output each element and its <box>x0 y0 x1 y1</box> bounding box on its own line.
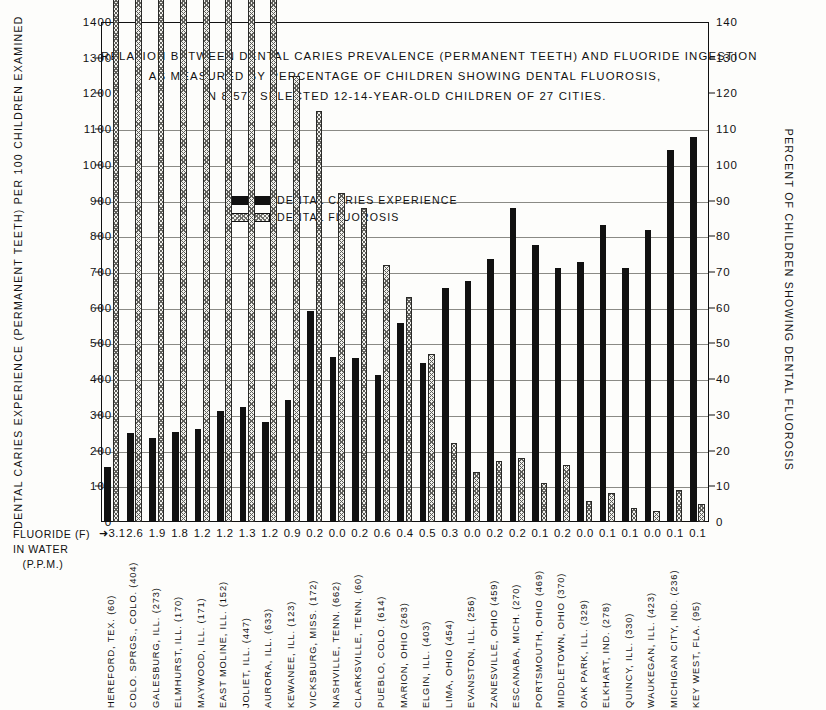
fluoride-value: ➜3.1 <box>99 527 126 540</box>
bar-dental-caries-experience <box>487 259 494 522</box>
city-label: PORTSMOUTH, OHIO (469) <box>534 570 544 708</box>
y-axis-right-tick-mark <box>709 200 715 201</box>
bar-dental-fluorosis <box>451 443 458 522</box>
bar-dental-fluorosis <box>180 0 187 522</box>
y-axis-title-right-text: PERCENT OF CHILDREN SHOWING DENTAL FLUOR… <box>783 129 795 471</box>
city-label: ESCANABA, MICH. (270) <box>511 584 521 708</box>
fluoride-value: 0.9 <box>284 527 301 539</box>
bars-layer <box>101 22 709 522</box>
y-axis-right-tick-mark <box>709 307 715 308</box>
fluoride-value: 1.2 <box>261 527 278 539</box>
y-axis-right-tick-label: 40 <box>716 373 776 385</box>
y-axis-right-tick-label: 70 <box>716 266 776 278</box>
city-label: MICHIGAN CITY, IND. (236) <box>669 570 679 708</box>
bar-dental-fluorosis <box>563 465 570 522</box>
bar-dental-caries-experience <box>600 225 607 522</box>
y-axis-right-tick-mark <box>709 486 715 487</box>
fluoride-value: 0.1 <box>532 527 549 539</box>
city-label: KEY WEST, FLA. (95) <box>691 601 701 708</box>
city-label: AURORA, ILL. (633) <box>263 608 273 708</box>
bar-dental-fluorosis <box>496 461 503 522</box>
city-label: HEREFORD, TEX. (60) <box>106 595 116 708</box>
city-label: OAK PARK, ILL. (329) <box>579 599 589 708</box>
fluoride-value: 0.4 <box>396 527 413 539</box>
bar-dental-caries-experience <box>375 375 382 523</box>
y-axis-title-left-text: DENTAL CARIES EXPERIENCE (PERMANENT TEET… <box>12 15 24 528</box>
y-axis-title-left: DENTAL CARIES EXPERIENCE (PERMANENT TEET… <box>9 22 27 522</box>
y-axis-right-tick-label: 100 <box>716 159 776 171</box>
city-label: ELMHURST, ILL. (170) <box>173 596 183 708</box>
fluoride-value: 1.2 <box>194 527 211 539</box>
bar-group <box>371 22 394 522</box>
bar-dental-caries-experience <box>262 422 269 522</box>
fluoride-value: 2.6 <box>126 527 143 539</box>
bar-dental-fluorosis <box>270 0 277 522</box>
bar-dental-caries-experience <box>149 438 156 522</box>
bar-dental-fluorosis <box>541 483 548 522</box>
bar-dental-caries-experience <box>622 268 629 522</box>
bar-dental-caries-experience <box>330 357 337 522</box>
fluoride-value: 0.0 <box>644 527 661 539</box>
fluoride-value: 0.0 <box>577 527 594 539</box>
bar-dental-fluorosis <box>608 493 615 522</box>
y-axis-right-tick-label: 120 <box>716 87 776 99</box>
bar-dental-fluorosis <box>473 472 480 522</box>
bar-group <box>124 22 147 522</box>
y-axis-right-tick-label: 20 <box>716 445 776 457</box>
bar-dental-fluorosis <box>316 111 323 522</box>
city-label: MIDDLETOWN, OHIO (370) <box>556 573 566 708</box>
city-label: LIMA, OHIO (454) <box>444 619 454 708</box>
city-label: VICKSBURG, MISS. (172) <box>308 580 318 708</box>
bar-dental-caries-experience <box>307 311 314 522</box>
y-axis-right-tick-label: 110 <box>716 123 776 135</box>
bar-dental-caries-experience <box>397 323 404 522</box>
y-axis-title-right: PERCENT OF CHILDREN SHOWING DENTAL FLUOR… <box>780 100 798 500</box>
fluoride-value: 0.1 <box>622 527 639 539</box>
bar-dental-fluorosis <box>698 504 705 522</box>
y-axis-right-tick-label: 50 <box>716 337 776 349</box>
city-label: COLO. SPRGS., COLO. (404) <box>128 562 138 708</box>
bar-group <box>596 22 619 522</box>
city-label: KEWANEE, ILL. (123) <box>286 601 296 708</box>
dental-caries-fluorosis-chart: DENTAL CARIES EXPERIENCE (PERMANENT TEET… <box>0 0 826 710</box>
bar-group <box>416 22 439 522</box>
y-axis-right-tick-label: 80 <box>716 230 776 242</box>
city-label: PUEBLO, COLO. (614) <box>376 596 386 708</box>
city-label: MAYWOOD, ILL. (171) <box>196 597 206 708</box>
bar-dental-caries-experience <box>104 467 111 522</box>
bar-group <box>551 22 574 522</box>
bar-dental-caries-experience <box>667 150 674 523</box>
fluoride-value: 0.1 <box>689 527 706 539</box>
city-label: MARION, OHIO (263) <box>399 602 409 708</box>
fluoride-value: 0.1 <box>599 527 616 539</box>
bar-group <box>686 22 709 522</box>
bar-dental-fluorosis <box>383 265 390 522</box>
bar-group <box>574 22 597 522</box>
y-axis-right-tick-mark <box>709 236 715 237</box>
y-axis-right-tick-label: 60 <box>716 302 776 314</box>
bar-dental-fluorosis <box>428 354 435 522</box>
bar-dental-caries-experience <box>240 407 247 522</box>
city-label: EAST MOLINE, ILL. (152) <box>218 581 228 708</box>
bar-dental-fluorosis <box>158 0 165 522</box>
bar-dental-caries-experience <box>645 230 652 522</box>
y-axis-right-tick-label: 90 <box>716 195 776 207</box>
fluoride-value: 0.2 <box>509 527 526 539</box>
bar-group <box>394 22 417 522</box>
bar-group <box>664 22 687 522</box>
fluoride-value: 0.2 <box>306 527 323 539</box>
bar-group <box>619 22 642 522</box>
bar-dental-caries-experience <box>442 288 449 522</box>
fluoride-value: 0.1 <box>667 527 684 539</box>
y-axis-right-tick-mark <box>709 414 715 415</box>
fluoride-value: 0.2 <box>554 527 571 539</box>
bar-dental-fluorosis <box>653 511 660 522</box>
y-axis-right-tick-mark <box>709 343 715 344</box>
bar-dental-fluorosis <box>203 0 210 522</box>
city-label: JOLIET, ILL. (447) <box>241 617 251 708</box>
fluoride-values-row: ➜3.12.61.91.81.21.21.31.20.90.20.00.20.6… <box>101 527 709 545</box>
bar-dental-fluorosis <box>631 508 638 522</box>
bar-dental-fluorosis <box>113 0 120 522</box>
city-label: ELGIN, ILL. (403) <box>421 621 431 708</box>
bar-group <box>146 22 169 522</box>
